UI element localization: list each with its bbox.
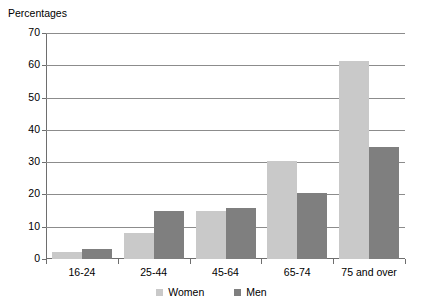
legend-item-women: Women xyxy=(156,286,204,298)
y-tick-label: 70 xyxy=(6,27,40,38)
bar-group xyxy=(190,33,262,259)
bar-chart: Percentages 010203040506070 16-2425-4445… xyxy=(0,0,423,308)
bar-group xyxy=(46,33,118,259)
legend-label: Women xyxy=(168,286,204,298)
x-tick-mark xyxy=(190,259,191,264)
bar-men-65-74 xyxy=(297,193,327,259)
y-tick-label: 30 xyxy=(6,156,40,167)
x-tick-mark xyxy=(118,259,119,264)
bar-women-65-74 xyxy=(267,161,297,259)
bar-men-16-24 xyxy=(82,249,112,259)
x-tick-mark xyxy=(46,259,47,264)
x-tick-mark xyxy=(333,259,334,264)
bar-women-25-44 xyxy=(124,233,154,259)
y-tick-label: 20 xyxy=(6,188,40,199)
x-tick-mark xyxy=(405,259,406,264)
bar-men-25-44 xyxy=(154,211,184,259)
legend-swatch-men-icon xyxy=(234,289,241,296)
x-tick-mark xyxy=(261,259,262,264)
plot-area xyxy=(46,33,405,259)
legend-label: Men xyxy=(246,286,266,298)
bar-group xyxy=(118,33,190,259)
y-axis-title: Percentages xyxy=(8,7,67,19)
y-tick-label: 0 xyxy=(6,253,40,264)
legend: WomenMen xyxy=(0,286,423,298)
bar-women-75-and-over xyxy=(339,61,369,259)
bar-group xyxy=(261,33,333,259)
y-tick-label: 40 xyxy=(6,124,40,135)
y-tick-label: 50 xyxy=(6,92,40,103)
legend-swatch-women-icon xyxy=(156,289,163,296)
bar-group xyxy=(333,33,405,259)
bar-men-45-64 xyxy=(226,208,256,259)
bar-women-45-64 xyxy=(196,211,226,259)
y-tick-label: 60 xyxy=(6,59,40,70)
bar-men-75-and-over xyxy=(369,147,399,259)
bar-women-16-24 xyxy=(52,252,82,259)
bar-groups xyxy=(46,33,405,259)
legend-item-men: Men xyxy=(234,286,266,298)
x-tick-label: 75 and over xyxy=(324,266,414,279)
y-tick-label: 10 xyxy=(6,221,40,232)
